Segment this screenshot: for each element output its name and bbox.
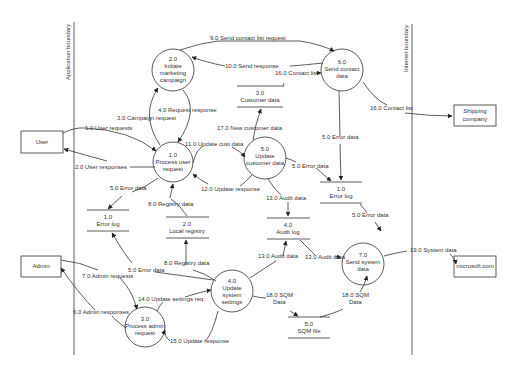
store-5-sqm-file[interactable]: 5.0 SQM file bbox=[288, 317, 330, 338]
svg-text:15.0 Update response: 15.0 Update response bbox=[170, 338, 230, 344]
store-1b-error-log[interactable]: 1.0 Error log bbox=[320, 182, 362, 203]
process-3-process-admin-request[interactable]: 3.0 Process admin request bbox=[125, 307, 165, 347]
svg-text:Update: Update bbox=[255, 153, 275, 159]
application-boundary-label: Application boundary bbox=[65, 24, 71, 80]
process-1-process-user-request[interactable]: 1.0 Process user request bbox=[153, 142, 193, 182]
svg-text:5.0 Error data: 5.0 Error data bbox=[128, 267, 165, 273]
svg-text:6.0: 6.0 bbox=[338, 59, 347, 65]
svg-text:19.0 System data: 19.0 System data bbox=[410, 247, 457, 253]
svg-text:3.0: 3.0 bbox=[141, 316, 150, 322]
svg-text:13.0 Audit data: 13.0 Audit data bbox=[305, 254, 346, 260]
store-1-error-log[interactable]: 1.0 Error log bbox=[87, 210, 129, 231]
svg-text:1.0: 1.0 bbox=[169, 152, 178, 158]
flow-13-audit-data-p5: 13.0 Audit data bbox=[266, 179, 307, 216]
svg-text:Shipping: Shipping bbox=[463, 108, 486, 114]
flow-7-admin-requests: 7.0 Admin requests bbox=[61, 260, 137, 309]
svg-text:Process admin: Process admin bbox=[125, 323, 165, 329]
svg-text:2.0: 2.0 bbox=[169, 56, 178, 62]
process-6-send-contact-data[interactable]: 6.0 Send contact data bbox=[321, 49, 363, 91]
svg-text:system: system bbox=[222, 292, 241, 298]
svg-text:Customer data: Customer data bbox=[240, 97, 280, 103]
svg-text:data: data bbox=[336, 73, 348, 79]
entity-shipping-company[interactable]: Shipping company bbox=[454, 105, 496, 126]
svg-text:17.0 New customer data: 17.0 New customer data bbox=[217, 125, 283, 131]
svg-text:1.0 User requests: 1.0 User requests bbox=[85, 125, 132, 131]
svg-text:8.0 Registry data: 8.0 Registry data bbox=[164, 260, 210, 266]
svg-text:5.0: 5.0 bbox=[305, 321, 314, 327]
svg-text:settings: settings bbox=[222, 299, 243, 305]
svg-text:10.0 Send response: 10.0 Send response bbox=[225, 63, 279, 69]
flow-10-send-response: 10.0 Send response bbox=[192, 57, 323, 69]
process-4-update-system-settings[interactable]: 4.0 Update system settings bbox=[211, 270, 253, 312]
entity-user[interactable]: User bbox=[21, 131, 63, 153]
svg-text:Admin: Admin bbox=[32, 263, 49, 269]
store-2-local-registry[interactable]: 2.0 Local registry bbox=[166, 217, 209, 238]
svg-text:9.0 Send contact list request: 9.0 Send contact list request bbox=[210, 35, 286, 41]
svg-text:13.0 Audit data: 13.0 Audit data bbox=[266, 195, 307, 201]
svg-text:request: request bbox=[135, 330, 155, 336]
svg-text:16.0 Contact list: 16.0 Contact list bbox=[275, 70, 318, 76]
flow-13-audit-data-p4: 13.0 Audit data bbox=[250, 241, 299, 278]
svg-text:13.0 Audit data: 13.0 Audit data bbox=[258, 253, 299, 259]
entity-admin[interactable]: Admin bbox=[21, 256, 61, 277]
svg-text:Send system: Send system bbox=[346, 259, 381, 265]
flow-12-update-response: 12.0 Update response bbox=[193, 174, 261, 192]
svg-text:2.0 User responses: 2.0 User responses bbox=[75, 164, 127, 170]
svg-text:7.0 Admin requests: 7.0 Admin requests bbox=[82, 273, 133, 279]
store-4-audit-log[interactable]: 4.0 Audit log bbox=[267, 218, 310, 239]
svg-text:4.0: 4.0 bbox=[228, 278, 237, 284]
svg-text:Error log: Error log bbox=[96, 221, 119, 227]
svg-text:3.0: 3.0 bbox=[256, 90, 265, 96]
flow-11-update-cust-data: 11.0 Update cust data bbox=[185, 141, 245, 163]
svg-text:12.0 Update response: 12.0 Update response bbox=[201, 186, 261, 192]
flow-15-update-response: 15.0 Update response bbox=[165, 311, 230, 344]
svg-text:11.0 Update cust data: 11.0 Update cust data bbox=[185, 141, 244, 147]
svg-text:2.0: 2.0 bbox=[183, 221, 192, 227]
flow-5-error-data-p5: 5.0 Error data bbox=[286, 158, 331, 181]
svg-text:Local registry: Local registry bbox=[169, 228, 205, 234]
data-flow-diagram: Application boundary Internet boundary U… bbox=[0, 0, 518, 372]
svg-text:3.0 Campaign request: 3.0 Campaign request bbox=[117, 115, 176, 121]
flow-19-system-data: 19.0 System data bbox=[384, 247, 457, 264]
flow-16-contact-list-to-store: 16.0 Contact list bbox=[275, 70, 321, 87]
flow-13-audit-data-p7: 13.0 Audit data bbox=[300, 240, 346, 260]
flow-17-new-customer-data: 17.0 New customer data bbox=[217, 109, 283, 140]
svg-text:8.0 Registry data: 8.0 Registry data bbox=[148, 201, 194, 207]
svg-text:Error log: Error log bbox=[329, 193, 352, 199]
store-3-customer-data[interactable]: 3.0 Customer data bbox=[237, 86, 283, 107]
flow-9-send-contact-list-request: 9.0 Send contact list request bbox=[180, 35, 334, 51]
process-2-initiate-marketing-campaign[interactable]: 2.0 Initiate marketing campaign bbox=[152, 49, 194, 91]
svg-text:Initiate: Initiate bbox=[164, 63, 182, 69]
svg-text:1.0: 1.0 bbox=[104, 214, 113, 220]
svg-text:16.0 Contact list: 16.0 Contact list bbox=[370, 105, 413, 111]
internet-boundary-label: Internet boundary bbox=[403, 25, 409, 72]
svg-text:5.0 Error data: 5.0 Error data bbox=[110, 185, 147, 191]
svg-text:Process user: Process user bbox=[155, 159, 190, 165]
process-7-send-system-data[interactable]: 7.0 Send system data bbox=[342, 243, 384, 285]
svg-text:5.0: 5.0 bbox=[261, 146, 270, 152]
flow-1-user-requests: 1.0 User requests bbox=[63, 125, 156, 151]
svg-text:data: data bbox=[357, 266, 369, 272]
svg-text:4.0 Request response: 4.0 Request response bbox=[158, 107, 217, 113]
svg-text:18.0 SQM: 18.0 SQM bbox=[266, 292, 293, 298]
svg-text:7.0: 7.0 bbox=[359, 252, 368, 258]
svg-text:6.0 Admin responses: 6.0 Admin responses bbox=[73, 309, 129, 315]
svg-text:18.0 SQM: 18.0 SQM bbox=[342, 292, 369, 298]
svg-text:Data: Data bbox=[349, 299, 362, 305]
flow-8-registry-data-p4: 8.0 Registry data bbox=[164, 240, 216, 281]
svg-text:customer data: customer data bbox=[246, 160, 285, 166]
svg-text:5.0 Error data: 5.0 Error data bbox=[322, 134, 359, 140]
svg-text:1.0: 1.0 bbox=[337, 186, 346, 192]
svg-text:4.0: 4.0 bbox=[284, 222, 293, 228]
svg-text:14.0 Update settings req: 14.0 Update settings req bbox=[138, 296, 203, 302]
entity-microsoft[interactable]: microsoft.com bbox=[454, 256, 496, 277]
svg-text:campaign: campaign bbox=[160, 77, 186, 83]
svg-text:5.0 Error data: 5.0 Error data bbox=[352, 212, 389, 218]
svg-text:5.0 Error data: 5.0 Error data bbox=[292, 163, 329, 169]
flow-5-error-data-to-p7: 5.0 Error data bbox=[352, 204, 389, 231]
svg-text:marketing: marketing bbox=[160, 70, 186, 76]
process-5-update-customer-data[interactable]: 5.0 Update customer data bbox=[244, 137, 286, 179]
flow-18-sqm-data-p4: 18.0 SQM Data bbox=[253, 292, 298, 316]
svg-text:User: User bbox=[36, 139, 49, 145]
svg-text:company: company bbox=[463, 116, 487, 122]
